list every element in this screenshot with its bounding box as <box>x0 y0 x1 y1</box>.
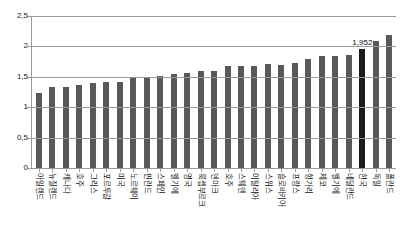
x-tick <box>59 168 72 172</box>
x-tick-mark <box>120 168 121 172</box>
bar-slot <box>59 16 72 168</box>
x-tick <box>383 168 396 172</box>
x-axis-category-label: 포르투갈 <box>102 173 110 200</box>
bar <box>386 35 392 168</box>
y-tick-label: 1,5 <box>0 73 28 81</box>
bar <box>265 64 271 168</box>
y-tick-label: 2,5 <box>0 12 28 20</box>
x-tick-mark <box>335 168 336 172</box>
bar <box>225 66 231 168</box>
x-tick <box>45 168 58 172</box>
x-tick-mark <box>322 168 323 172</box>
x-label-slot: 독일 <box>369 173 382 231</box>
x-axis-ticks <box>32 168 396 172</box>
gridline <box>31 16 396 17</box>
x-axis-category-label: 룩셉부르크 <box>197 173 205 207</box>
bar <box>63 87 69 168</box>
x-tick <box>207 168 220 172</box>
x-label-slot: 미국 <box>113 173 126 231</box>
x-tick-mark <box>201 168 202 172</box>
x-tick <box>180 168 193 172</box>
bar-slot <box>32 16 45 168</box>
x-tick-mark <box>295 168 296 172</box>
x-tick <box>356 168 369 172</box>
x-tick <box>221 168 234 172</box>
bar <box>117 82 123 168</box>
x-tick <box>369 168 382 172</box>
x-axis-category-label: 뉴질랜드 <box>48 173 56 200</box>
bar-slot <box>369 16 382 168</box>
x-label-slot: 포르투갈 <box>99 173 112 231</box>
bar-slot <box>153 16 166 168</box>
bar <box>319 56 325 168</box>
x-axis-category-label: 호주 <box>224 173 232 187</box>
x-label-slot: 아일랜드 <box>32 173 45 231</box>
x-label-slot: 폴란드 <box>383 173 396 231</box>
x-tick-mark <box>93 168 94 172</box>
x-axis-category-label: 스위스 <box>264 173 272 193</box>
x-tick <box>167 168 180 172</box>
x-tick <box>329 168 342 172</box>
bar-slot: 1,952 <box>356 16 369 168</box>
bar <box>36 93 42 168</box>
bar <box>332 56 338 168</box>
y-tick: 2 <box>0 42 28 50</box>
bar-slot <box>329 16 342 168</box>
x-tick <box>194 168 207 172</box>
plot-area: 1,952 <box>32 16 396 168</box>
y-tick: 0 <box>0 164 28 172</box>
y-tick: 2,5 <box>0 12 28 20</box>
x-label-slot: 룩셉부르크 <box>194 173 207 231</box>
x-tick-mark <box>39 168 40 172</box>
y-tick-label: 1 <box>0 103 28 111</box>
x-axis-category-label: 노르웨이 <box>129 173 137 200</box>
x-tick-mark <box>174 168 175 172</box>
x-axis-category-label: 프랑스 <box>291 173 299 193</box>
gridline <box>31 77 396 78</box>
gridline <box>31 138 396 139</box>
bar-slot <box>248 16 261 168</box>
x-axis-category-label: 네덜란드 <box>345 173 353 200</box>
bar-slot <box>86 16 99 168</box>
x-tick <box>261 168 274 172</box>
x-label-slot: 벨기에 <box>329 173 342 231</box>
x-axis-category-label: 영국 <box>183 173 191 187</box>
bar <box>305 59 311 168</box>
y-tick-label: 2 <box>0 42 28 50</box>
x-label-slot: 프랑스 <box>288 173 301 231</box>
x-tick <box>72 168 85 172</box>
x-tick-mark <box>281 168 282 172</box>
x-axis-category-label: 스웨덴 <box>237 173 245 193</box>
x-label-slot: 영국 <box>180 173 193 231</box>
bar <box>171 74 177 168</box>
x-label-slot: 이탈리아 <box>248 173 261 231</box>
bar <box>144 77 150 168</box>
bar-chart: 1,952 아일랜드뉴질랜드캐나다호주그리스포르투갈미국노르웨이핀란드스페인벨기… <box>0 0 403 234</box>
x-tick-mark <box>362 168 363 172</box>
x-axis-category-label: 호주 <box>75 173 83 187</box>
x-tick <box>153 168 166 172</box>
bar-slot <box>140 16 153 168</box>
bar <box>76 85 82 168</box>
bar <box>211 71 217 168</box>
bar-slot <box>275 16 288 168</box>
bar <box>157 76 163 168</box>
x-tick-mark <box>133 168 134 172</box>
x-label-slot: 슬로바키아 <box>275 173 288 231</box>
x-axis-category-label: 헝가리 <box>304 173 312 193</box>
x-tick-mark <box>187 168 188 172</box>
x-label-slot: 그리스 <box>86 173 99 231</box>
x-tick <box>86 168 99 172</box>
bar-slot <box>302 16 315 168</box>
y-tick-label: 0,5 <box>0 134 28 142</box>
x-label-slot: 노르웨이 <box>126 173 139 231</box>
x-axis-category-label: 벨기에 <box>331 173 339 193</box>
x-tick-mark <box>147 168 148 172</box>
x-tick-mark <box>214 168 215 172</box>
x-tick-mark <box>268 168 269 172</box>
bar <box>49 87 55 168</box>
x-tick-mark <box>389 168 390 172</box>
x-label-slot: 체코 <box>315 173 328 231</box>
bar-slot <box>113 16 126 168</box>
x-label-slot: 헝가리 <box>302 173 315 231</box>
